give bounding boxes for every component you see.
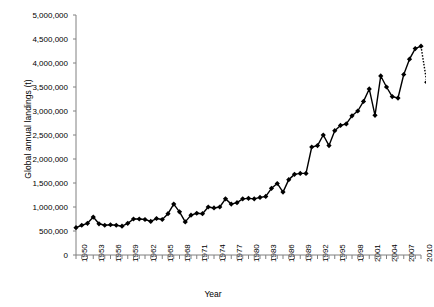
data-point-marker	[315, 143, 320, 148]
axis-lines	[76, 15, 421, 255]
data-point-marker	[321, 132, 326, 137]
dotted-tail-line	[421, 46, 426, 82]
data-point-marker	[211, 205, 216, 210]
data-point-marker	[79, 223, 84, 228]
data-point-marker	[378, 73, 383, 78]
data-point-marker-tail	[424, 80, 426, 85]
data-point-marker	[367, 86, 372, 91]
data-series-markers	[73, 44, 426, 231]
data-point-marker	[303, 171, 308, 176]
data-point-marker	[298, 171, 303, 176]
data-point-marker	[257, 195, 262, 200]
data-point-marker	[148, 219, 153, 224]
data-point-marker	[252, 196, 257, 201]
data-point-marker	[407, 57, 412, 62]
data-point-marker	[418, 44, 423, 49]
data-point-marker	[108, 222, 113, 227]
data-point-marker	[309, 144, 314, 149]
data-point-marker	[246, 196, 251, 201]
data-point-marker	[154, 216, 159, 221]
data-point-marker	[142, 217, 147, 222]
data-point-marker	[395, 95, 400, 100]
x-axis-ticks	[76, 255, 421, 259]
data-point-marker	[326, 143, 331, 148]
data-point-marker	[73, 225, 78, 230]
data-series-dotted-segment	[421, 46, 426, 82]
data-point-marker	[401, 72, 406, 77]
data-point-marker	[137, 216, 142, 221]
data-point-marker	[102, 223, 107, 228]
data-point-marker	[372, 113, 377, 118]
data-point-marker	[114, 223, 119, 228]
data-point-marker	[194, 211, 199, 216]
data-point-marker	[413, 46, 418, 51]
data-point-marker	[119, 224, 124, 229]
